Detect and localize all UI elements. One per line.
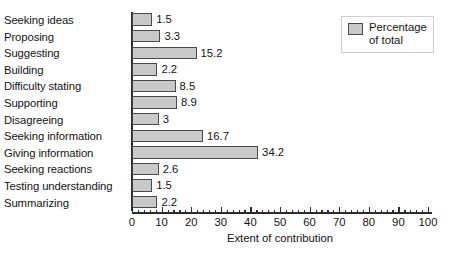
x-axis-tick-labels: 0102030405060708090100 — [132, 215, 432, 231]
x-axis-tick-label: 20 — [185, 215, 198, 229]
bar-row: 8.9 — [132, 95, 428, 112]
x-axis-minor-tick — [404, 210, 405, 213]
x-axis-minor-tick — [316, 210, 317, 213]
x-axis-minor-tick — [179, 210, 180, 213]
x-axis-minor-tick — [138, 210, 139, 213]
x-axis-minor-tick — [244, 210, 245, 213]
x-axis-minor-tick — [286, 210, 287, 213]
bar-row: 2.2 — [132, 62, 428, 79]
x-axis-minor-tick — [292, 210, 293, 213]
bar — [132, 113, 159, 125]
x-axis-minor-tick — [422, 210, 423, 213]
x-axis-tick-label: 60 — [303, 215, 316, 229]
x-axis-minor-tick — [387, 210, 388, 213]
category-label: Seeking ideas — [4, 12, 128, 29]
bar — [132, 146, 258, 158]
bar-row: 1.5 — [132, 178, 428, 195]
bar-row: 2.6 — [132, 161, 428, 178]
x-axis-major-tick — [310, 207, 311, 214]
bar-row: 34.2 — [132, 145, 428, 162]
x-axis-tick-label: 100 — [419, 215, 438, 229]
x-axis-tick-label: 80 — [363, 215, 376, 229]
bar — [132, 63, 157, 75]
x-axis-minor-tick — [256, 210, 257, 213]
x-axis-minor-tick — [416, 210, 417, 213]
bar-value-label: 1.5 — [156, 12, 172, 27]
x-axis-minor-tick — [168, 210, 169, 213]
x-axis-major-tick — [221, 207, 222, 214]
x-axis-minor-tick — [274, 210, 275, 213]
bar-value-label: 34.2 — [262, 145, 284, 160]
bar — [132, 30, 160, 42]
x-axis-major-tick — [339, 207, 340, 214]
category-label: Supporting — [4, 95, 128, 112]
x-axis-minor-tick — [173, 210, 174, 213]
category-label: Seeking information — [4, 128, 128, 145]
bar-value-label: 2.6 — [163, 162, 179, 177]
bar — [132, 96, 177, 108]
x-axis-tick-label: 90 — [392, 215, 405, 229]
x-axis-major-tick — [428, 207, 429, 214]
category-label: Summarizing — [4, 195, 128, 212]
x-axis-minor-tick — [321, 210, 322, 213]
x-axis-minor-tick — [262, 210, 263, 213]
x-axis-minor-tick — [150, 210, 151, 213]
x-axis-title: Extent of contribution — [132, 232, 428, 244]
x-axis-minor-tick — [327, 210, 328, 213]
x-axis-tick-label: 70 — [333, 215, 346, 229]
x-axis-minor-tick — [233, 210, 234, 213]
category-label: Suggesting — [4, 45, 128, 62]
bar — [132, 47, 197, 59]
bar — [132, 179, 152, 191]
x-axis-minor-tick — [209, 210, 210, 213]
bar-value-label: 16.7 — [207, 129, 229, 144]
x-axis-minor-tick — [363, 210, 364, 213]
x-axis-minor-tick — [227, 210, 228, 213]
x-axis-minor-tick — [185, 210, 186, 213]
x-axis-major-tick — [162, 207, 163, 214]
x-axis-tick-label: 30 — [215, 215, 228, 229]
x-axis-ticks — [132, 206, 432, 213]
legend-label-line1: Percentage — [369, 21, 427, 33]
x-axis-minor-tick — [203, 210, 204, 213]
category-label: Testing understanding — [4, 178, 128, 195]
category-label: Disagreeing — [4, 112, 128, 129]
x-axis-major-tick — [191, 207, 192, 214]
bar-row: 16.7 — [132, 128, 428, 145]
x-axis-minor-tick — [375, 210, 376, 213]
x-axis-minor-tick — [333, 210, 334, 213]
x-axis-major-tick — [250, 207, 251, 214]
x-axis-minor-tick — [239, 210, 240, 213]
legend-label-line2: of total — [369, 34, 403, 46]
x-axis-minor-tick — [351, 210, 352, 213]
bar-value-label: 3.3 — [164, 29, 180, 44]
x-axis-major-tick — [398, 207, 399, 214]
x-axis-minor-tick — [268, 210, 269, 213]
bar-value-label: 1.5 — [156, 178, 172, 193]
category-label: Proposing — [4, 29, 128, 46]
x-axis-minor-tick — [304, 210, 305, 213]
bar — [132, 80, 176, 92]
bar-value-label: 3 — [163, 112, 169, 127]
x-axis-tick-label: 0 — [129, 215, 135, 229]
x-axis-tick-label: 40 — [244, 215, 257, 229]
bar-value-label: 2.2 — [161, 62, 177, 77]
legend: Percentage of total — [341, 16, 434, 53]
bar-chart: Seeking ideasProposingSuggestingBuilding… — [0, 0, 456, 266]
x-axis-tick-label: 10 — [155, 215, 168, 229]
bar-row: 8.5 — [132, 78, 428, 95]
x-axis-minor-tick — [381, 210, 382, 213]
x-axis-minor-tick — [156, 210, 157, 213]
x-axis-minor-tick — [144, 210, 145, 213]
bar-value-label: 15.2 — [201, 46, 223, 61]
x-axis-major-tick — [132, 207, 133, 214]
x-axis-minor-tick — [357, 210, 358, 213]
x-axis-tick-label: 50 — [274, 215, 287, 229]
bar — [132, 130, 203, 142]
x-axis-minor-tick — [197, 210, 198, 213]
category-axis-labels: Seeking ideasProposingSuggestingBuilding… — [4, 12, 128, 211]
category-label: Giving information — [4, 145, 128, 162]
x-axis-minor-tick — [215, 210, 216, 213]
bar — [132, 163, 159, 175]
category-label: Difficulty stating — [4, 78, 128, 95]
